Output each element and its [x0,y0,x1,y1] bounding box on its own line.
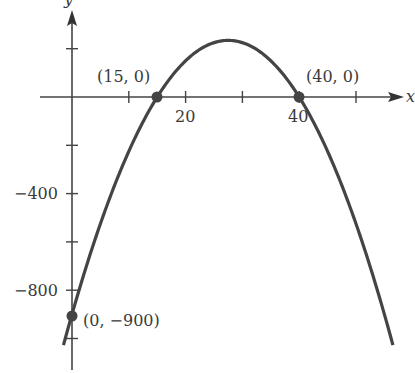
y-axis-label: y [63,0,74,8]
x-axis-label: x [406,87,415,106]
parabola-chart: x y 20 40 −400 −800 (15, 0) (40, 0) (0, … [0,0,415,373]
y-tick-label-neg400: −400 [14,184,58,203]
annotation-40-0: (40, 0) [306,67,359,86]
point-15-0 [152,92,163,103]
y-tick-label-neg800: −800 [14,281,58,300]
point-0-neg900 [67,311,78,322]
point-40-0 [294,92,305,103]
x-tick-label-20: 20 [175,107,195,126]
parabola-curve [63,40,392,345]
annotation-15-0: (15, 0) [97,67,150,86]
annotation-0-neg900: (0, −900) [83,311,160,330]
